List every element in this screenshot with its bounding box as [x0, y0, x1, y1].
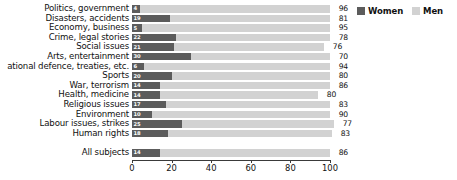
bar-segment-men [191, 53, 330, 61]
bar-track: 20 [132, 72, 330, 80]
bar-track: 19 [132, 15, 330, 23]
bar-segment-men [142, 24, 330, 32]
bar-segment-men [160, 82, 330, 90]
x-axis-tick-label: 0 [129, 163, 134, 174]
bar-value-label-men: 83 [332, 100, 348, 110]
bar-value-label-women: 17 [134, 101, 141, 108]
bar-segment-men [144, 63, 330, 71]
bar-value-label-men: 95 [332, 23, 348, 33]
bar-segment-women: 21 [132, 43, 174, 51]
category-label: Religious issues [0, 100, 129, 110]
bar-segment-women: 4 [132, 5, 140, 13]
x-axis: 020406080100 [132, 160, 330, 176]
bar-track: 4 [132, 5, 330, 13]
bar-track: 6 [132, 63, 330, 71]
x-axis-tick-label: 20 [166, 163, 177, 174]
bar-value-label-men: 90 [332, 110, 348, 120]
bar-value-label-men: 96 [332, 4, 348, 14]
bar-value-label-women: 20 [134, 73, 141, 80]
bar-segment-men [152, 111, 330, 119]
bar-segment-women: 30 [132, 53, 191, 61]
bar-track: 10 [132, 111, 330, 119]
bar-value-label-men: 94 [332, 62, 348, 72]
bar-segment-men [166, 101, 330, 109]
bar-track: 25 [132, 120, 330, 128]
chart-row: Labour issues, strikes2577 [0, 119, 457, 129]
all-subjects-row: All subjects1486 [0, 148, 457, 158]
bar-segment-women: 20 [132, 72, 172, 80]
bar-track: 22 [132, 34, 330, 42]
bar-track: 5 [132, 24, 330, 32]
bar-value-label-men: 70 [332, 52, 348, 62]
bar-track: 14 [132, 149, 330, 157]
bar-track: 17 [132, 101, 330, 109]
bar-segment-men [170, 15, 330, 23]
bar-segment-men [160, 149, 330, 157]
bar-segment-women: 18 [132, 130, 168, 138]
chart-row: All subjects1486 [0, 148, 457, 158]
bar-segment-women: 10 [132, 111, 152, 119]
bar-segment-men [182, 120, 334, 128]
bar-value-label-men: 86 [332, 148, 348, 158]
category-label: Human rights [0, 129, 129, 139]
bar-value-label-women: 19 [134, 15, 141, 22]
horizontal-stacked-bar-chart: Women Men Politics, government496Disaste… [0, 0, 457, 180]
chart-rows: Politics, government496Disasters, accide… [0, 4, 457, 138]
bar-value-label-men: 80 [320, 90, 336, 100]
chart-row: Religious issues1783 [0, 100, 457, 110]
category-label: All subjects [0, 148, 129, 158]
bar-value-label-women: 14 [134, 92, 141, 99]
bar-segment-women: 25 [132, 120, 182, 128]
bar-value-label-men: 77 [336, 119, 352, 129]
bar-segment-women: 19 [132, 15, 170, 23]
bar-value-label-men: 83 [334, 129, 350, 139]
x-axis-tick-label: 80 [285, 163, 296, 174]
bar-track: 21 [132, 43, 330, 51]
bar-segment-women: 14 [132, 91, 160, 99]
bar-value-label-women: 5 [134, 25, 137, 32]
bar-value-label-women: 6 [134, 63, 137, 70]
bar-value-label-men: 78 [332, 33, 348, 43]
bar-value-label-men: 80 [332, 71, 348, 81]
bar-segment-women: 5 [132, 24, 142, 32]
x-axis-tick-label: 100 [322, 163, 338, 174]
bar-value-label-women: 10 [134, 111, 141, 118]
x-axis-tick-label: 60 [245, 163, 256, 174]
x-axis-line [132, 160, 330, 161]
bar-segment-men [172, 72, 330, 80]
bar-value-label-women: 4 [134, 5, 137, 12]
bar-track: 14 [132, 82, 330, 90]
bar-value-label-women: 22 [134, 34, 141, 41]
bar-segment-women: 14 [132, 82, 160, 90]
chart-row: ational defence, treaties, etc.694 [0, 62, 457, 72]
bar-segment-men [176, 34, 330, 42]
bar-segment-men [174, 43, 324, 51]
chart-row: Human rights1883 [0, 129, 457, 139]
bar-value-label-women: 14 [134, 82, 141, 89]
bar-track: 14 [132, 91, 330, 99]
x-axis-tick-label: 40 [206, 163, 217, 174]
bar-segment-men [140, 5, 330, 13]
bar-value-label-women: 14 [134, 149, 141, 156]
bar-segment-men [160, 91, 318, 99]
bar-segment-women: 6 [132, 63, 144, 71]
bar-value-label-women: 21 [134, 44, 141, 51]
bar-value-label-men: 76 [326, 42, 342, 52]
bar-value-label-men: 81 [332, 14, 348, 24]
bar-segment-women: 22 [132, 34, 176, 42]
bar-segment-men [168, 130, 332, 138]
chart-row: Crime, legal stories2278 [0, 33, 457, 43]
bar-track: 30 [132, 53, 330, 61]
bar-track: 18 [132, 130, 330, 138]
bar-segment-women: 14 [132, 149, 160, 157]
bar-value-label-women: 18 [134, 130, 141, 137]
bar-value-label-women: 30 [134, 53, 141, 60]
bar-segment-women: 17 [132, 101, 166, 109]
bar-value-label-men: 86 [332, 81, 348, 91]
bar-value-label-women: 25 [134, 121, 141, 128]
